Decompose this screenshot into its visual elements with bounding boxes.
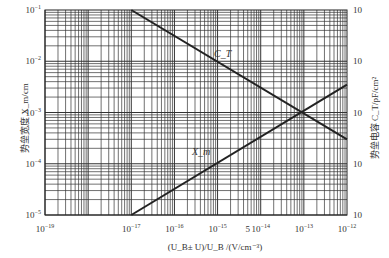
y-tick-label: 10−4 (26, 158, 41, 169)
x-tick-label: 5 (245, 224, 250, 234)
y2-ticks: 1010101010 (353, 5, 363, 220)
y-tick-label: 10−2 (26, 55, 41, 66)
y2-tick-label: 10 (353, 159, 363, 169)
y2-axis-label: 势垒电容 C_T/pF/cm² (369, 76, 380, 159)
y2-tick-label: 10 (353, 5, 363, 15)
x-ticks: 10−1910−1710−1610−15510−1410−1310−12 (36, 223, 356, 234)
y-tick-label: 10−1 (26, 4, 41, 15)
series-label-xm: X_m (191, 146, 210, 157)
y2-tick-label: 10 (353, 56, 363, 66)
series-line-xm (131, 85, 347, 215)
x-tick-label: 10−14 (252, 223, 270, 234)
x-axis-label: (U_B± U)/U_B /(V/cm⁻³) (168, 242, 263, 252)
series-label-ct: C_T (214, 48, 233, 59)
x-tick-label: 10−13 (295, 223, 313, 234)
y-axis-label: 势垒宽度 X_m/cm (19, 83, 30, 153)
y2-tick-label: 10 (353, 210, 363, 220)
series-line-ct (131, 10, 347, 139)
x-tick-label: 10−12 (338, 223, 356, 234)
y2-tick-label: 10 (353, 108, 363, 118)
chart: 10−1910−1710−1610−15510−1410−1310−12 10−… (0, 0, 389, 258)
x-tick-label: 10−19 (36, 223, 54, 234)
x-tick-label: 10−16 (165, 223, 183, 234)
y-tick-label: 10−5 (26, 209, 41, 220)
x-tick-label: 10−17 (122, 223, 140, 234)
x-tick-label: 10−15 (208, 223, 226, 234)
